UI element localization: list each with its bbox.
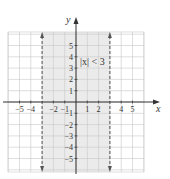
y-tick-label: −4 — [64, 143, 73, 152]
inequality-graph: −5−4−2−1124554321−1−2−3−4−5 x y |x| < 3 — [0, 0, 170, 179]
y-tick-label: −2 — [64, 121, 73, 130]
y-axis-arrow-icon — [74, 17, 79, 24]
y-tick-label: −5 — [64, 155, 73, 164]
y-tick-label: −1 — [64, 109, 73, 118]
y-tick-label: 1 — [69, 87, 73, 96]
x-tick-label: 4 — [119, 105, 123, 114]
y-tick-label: 5 — [69, 42, 73, 51]
x-tick-label: −4 — [27, 105, 36, 114]
y-tick-label: 4 — [69, 53, 73, 62]
y-tick-label: −3 — [64, 132, 73, 141]
y-axis-label: y — [65, 14, 71, 25]
x-tick-label: −5 — [15, 105, 24, 114]
x-tick-label: 2 — [97, 105, 101, 114]
x-axis-label: x — [155, 103, 161, 114]
x-tick-label: 5 — [131, 105, 135, 114]
x-tick-label: −2 — [49, 105, 58, 114]
y-tick-label: 3 — [69, 64, 73, 73]
x-tick-label: 1 — [85, 105, 89, 114]
inequality-annotation: |x| < 3 — [80, 56, 105, 67]
y-tick-label: 2 — [69, 75, 73, 84]
